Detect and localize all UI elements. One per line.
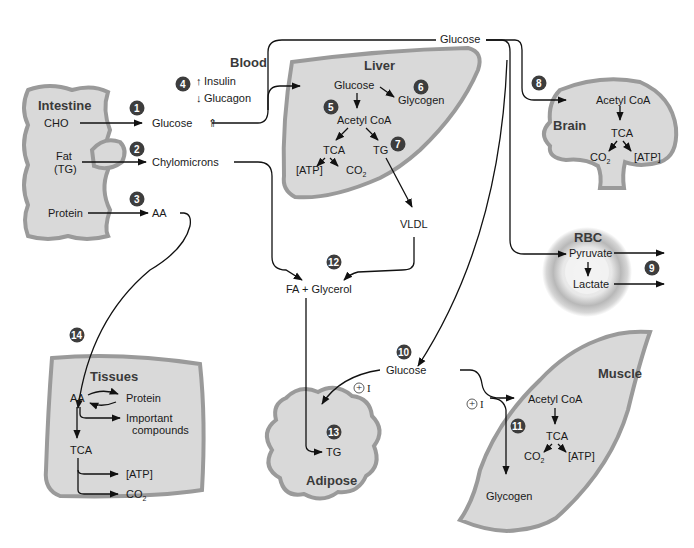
svg-text:9: 9 xyxy=(649,263,655,274)
svg-text:+: + xyxy=(469,397,475,409)
tissue-aa-label: AA xyxy=(70,392,85,404)
tissue-atp-label: [ATP] xyxy=(126,468,153,480)
insulin-stimulates-muscle: + I xyxy=(467,397,484,410)
liver-glucose-label: Glucose xyxy=(334,79,374,91)
cho-label: CHO xyxy=(44,117,69,129)
badge-8: 8 xyxy=(532,76,547,91)
svg-text:6: 6 xyxy=(418,82,424,93)
liver-glycogen-label: Glycogen xyxy=(398,94,444,106)
metabolism-diagram: Intestine CHO Fat (TG) Protein Glucose ⇑… xyxy=(0,0,694,548)
svg-text:2: 2 xyxy=(134,144,140,155)
svg-text:1: 1 xyxy=(134,103,140,114)
top-glucose-label: Glucose xyxy=(440,33,480,45)
liver-tca-label: TCA xyxy=(323,144,346,156)
svg-text:I: I xyxy=(367,382,371,394)
svg-text:13: 13 xyxy=(328,427,340,438)
badge-14: 14 xyxy=(70,328,85,343)
badge-3: 3 xyxy=(130,192,145,207)
fat-label: Fat xyxy=(56,150,72,162)
liver-atp-label: [ATP] xyxy=(296,164,323,176)
vldl-label: VLDL xyxy=(400,218,428,230)
svg-text:5: 5 xyxy=(328,102,334,113)
diagram-canvas: Intestine CHO Fat (TG) Protein Glucose ⇑… xyxy=(0,0,694,548)
badge-5: 5 xyxy=(324,100,339,115)
lower-glucose-label: Glucose xyxy=(386,364,426,376)
svg-text:12: 12 xyxy=(328,257,340,268)
muscle-acetylcoa-label: Acetyl CoA xyxy=(528,393,583,405)
svg-text:10: 10 xyxy=(398,347,410,358)
aa-label: AA xyxy=(152,207,167,219)
svg-text:3: 3 xyxy=(134,194,140,205)
svg-text:7: 7 xyxy=(395,139,401,150)
blood-glucose-label: Glucose xyxy=(152,117,192,129)
svg-text:14: 14 xyxy=(71,330,83,341)
svg-text:+: + xyxy=(356,381,362,393)
rbc-title: RBC xyxy=(574,230,603,245)
muscle-glycogen-label: Glycogen xyxy=(486,490,532,502)
lactate-label: Lactate xyxy=(573,278,609,290)
badge-12: 12 xyxy=(327,255,342,270)
protein-label: Protein xyxy=(48,207,83,219)
brain-title: Brain xyxy=(553,118,586,133)
blood-title: Blood xyxy=(230,55,267,70)
intestine-title: Intestine xyxy=(38,98,91,113)
fa-glycerol-label: FA + Glycerol xyxy=(286,283,352,295)
liver-tg-label: TG xyxy=(373,144,388,156)
glucagon-down-icon: ↓ xyxy=(196,92,202,104)
liver-acetylcoa-label: Acetyl CoA xyxy=(337,114,392,126)
tissue-important-label: Important xyxy=(126,412,172,424)
tg-label: (TG) xyxy=(54,163,77,175)
badge-6: 6 xyxy=(414,80,429,95)
brain-acetylcoa-label: Acetyl CoA xyxy=(596,94,651,106)
muscle-atp-label: [ATP] xyxy=(568,450,595,462)
liver-title: Liver xyxy=(364,58,395,73)
brain-tca-label: TCA xyxy=(611,127,634,139)
adipose-tg-label: TG xyxy=(326,446,341,458)
svg-text:4: 4 xyxy=(180,79,186,90)
chylomicrons-label: Chylomicrons xyxy=(152,156,219,168)
badge-11: 11 xyxy=(511,419,526,434)
svg-text:8: 8 xyxy=(536,78,542,89)
insulin-up-icon: ↑ xyxy=(196,75,202,87)
badge-7: 7 xyxy=(391,137,406,152)
adipose-title: Adipose xyxy=(306,473,357,488)
badge-9: 9 xyxy=(645,261,660,276)
tissue-compounds-label: compounds xyxy=(132,424,189,436)
pyruvate-label: Pyruvate xyxy=(569,247,612,259)
tissue-protein-label: Protein xyxy=(126,392,161,404)
up-arrows-icon: ⇑ xyxy=(208,117,217,129)
insulin-label: Insulin xyxy=(204,75,236,87)
glucagon-label: Glucagon xyxy=(204,92,251,104)
badge-1: 1 xyxy=(130,101,145,116)
svg-text:I: I xyxy=(480,398,484,410)
insulin-stimulates-adipose: + I xyxy=(354,381,371,394)
badge-2: 2 xyxy=(130,142,145,157)
svg-text:11: 11 xyxy=(512,421,523,432)
tissues-title: Tissues xyxy=(90,369,138,384)
badge-13: 13 xyxy=(327,425,342,440)
badge-10: 10 xyxy=(397,345,412,360)
muscle-tca-label: TCA xyxy=(546,430,569,442)
tissue-tca-label: TCA xyxy=(70,444,93,456)
badge-4: 4 xyxy=(176,77,191,92)
muscle-title: Muscle xyxy=(598,366,642,381)
brain-atp-label: [ATP] xyxy=(634,151,661,163)
